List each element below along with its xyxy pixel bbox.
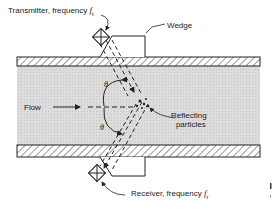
fluid-region <box>17 66 260 145</box>
wedge-bottom <box>100 157 145 176</box>
reflecting-particles-label: Reflecting particles <box>171 111 207 129</box>
wedge-label: Wedge <box>167 21 192 30</box>
theta-bottom-label: θ <box>100 123 104 132</box>
transmitter-icon <box>93 29 110 46</box>
receiver-label: Receiver, frequency fr <box>131 189 208 202</box>
pipe-bottom-wall <box>17 145 260 157</box>
theta-top-label: θ <box>104 80 108 89</box>
transmitter-label: Transmitter, frequency ft <box>8 6 94 19</box>
receiver-icon <box>89 165 106 182</box>
pipe-top-wall <box>17 57 260 66</box>
flow-label: Flow <box>24 103 41 112</box>
